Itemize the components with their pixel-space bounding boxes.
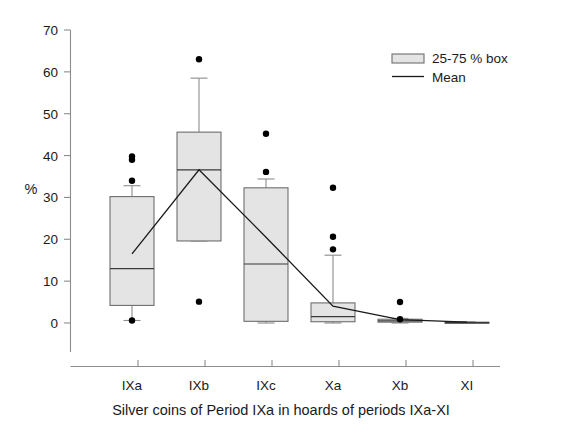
x-axis-tick-labels: IXaIXbIXcXaXbXI: [122, 378, 474, 393]
outlier-IXa-3: [129, 317, 135, 323]
x-tick-label-Xb: Xb: [392, 378, 409, 393]
x-tick-label-IXc: IXc: [256, 378, 276, 393]
box-IXc: [244, 179, 288, 323]
box-rect: [244, 188, 288, 322]
x-axis-ticks: [138, 360, 473, 367]
chart-caption: Silver coins of Period IXa in hoards of …: [112, 402, 450, 418]
outlier-IXb-1: [196, 298, 202, 304]
x-tick-label-Xa: Xa: [325, 378, 342, 393]
y-tick-label-60: 60: [43, 65, 58, 80]
box-rect: [110, 197, 154, 306]
chart-legend: 25-75 % box Mean: [392, 51, 508, 85]
x-tick-label-XI: XI: [461, 378, 474, 393]
outlier-Xa-0: [330, 185, 336, 191]
outlier-IXc-0: [263, 131, 269, 137]
outlier-Xb-0: [397, 299, 403, 305]
outlier-IXb-0: [196, 56, 202, 62]
box-IXb: [177, 78, 221, 241]
y-tick-label-0: 0: [50, 316, 58, 331]
outlier-Xb-1: [397, 316, 403, 322]
boxplot-series: [110, 78, 489, 323]
x-tick-label-IXa: IXa: [122, 378, 143, 393]
legend-box-swatch: [392, 54, 424, 63]
outlier-IXa-2: [129, 177, 135, 183]
outlier-Xa-2: [330, 246, 336, 252]
outlier-Xa-1: [330, 234, 336, 240]
y-tick-label-50: 50: [43, 107, 58, 122]
legend-mean-label: Mean: [432, 70, 466, 85]
y-tick-label-10: 10: [43, 274, 58, 289]
y-axis-title: %: [25, 181, 38, 197]
y-tick-label-30: 30: [43, 190, 58, 205]
box-Xa: [311, 255, 355, 323]
y-axis-tick-labels: 010203040506070: [43, 23, 58, 331]
legend-box-label: 25-75 % box: [432, 51, 508, 66]
x-tick-label-IXb: IXb: [189, 378, 209, 393]
box-rect: [177, 132, 221, 241]
y-tick-label-20: 20: [43, 232, 58, 247]
outlier-IXc-1: [263, 169, 269, 175]
y-axis-ticks: [64, 30, 71, 323]
boxplot-figure: 010203040506070 IXaIXbIXcXaXbXI % 25-75 …: [0, 0, 562, 442]
y-tick-label-70: 70: [43, 23, 58, 38]
outlier-IXa-1: [129, 157, 135, 163]
y-tick-label-40: 40: [43, 149, 58, 164]
chart-page: 010203040506070 IXaIXbIXcXaXbXI % 25-75 …: [0, 0, 562, 442]
